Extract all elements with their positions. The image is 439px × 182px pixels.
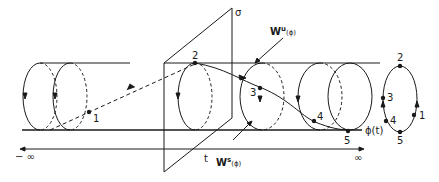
mid-circle-back bbox=[195, 63, 212, 130]
label-sigma: σ bbox=[235, 7, 242, 18]
orbit-label-4: 4 bbox=[390, 115, 396, 126]
orbit-down-arrow-icon bbox=[381, 101, 385, 107]
mid-circle-arrow-icon bbox=[176, 93, 180, 99]
orbit-point-4 bbox=[384, 119, 388, 123]
orbit-point-3 bbox=[381, 96, 385, 100]
ws-pointer bbox=[233, 123, 250, 140]
label-ws-arg: (ϕ) bbox=[231, 160, 241, 168]
left-circle-2-arrow-icon bbox=[53, 93, 57, 99]
orbit-point-5 bbox=[398, 130, 402, 134]
label-neg-infinity: − ∞ bbox=[15, 151, 35, 162]
orbit-point-2 bbox=[398, 64, 402, 68]
label-wu: Wu(ϕ) bbox=[270, 25, 296, 37]
mid-circle-front bbox=[178, 63, 195, 130]
label-time: t bbox=[204, 153, 208, 164]
label-point-4: 4 bbox=[317, 111, 323, 122]
label-point-1: 1 bbox=[93, 113, 99, 124]
label-pos-infinity: ∞ bbox=[354, 152, 362, 163]
point-4 bbox=[312, 119, 316, 123]
label-ws-main: W bbox=[216, 157, 227, 168]
label-point-2: 2 bbox=[192, 50, 198, 61]
dashed-trajectory bbox=[50, 64, 195, 130]
left-circle-1-arrow-icon bbox=[23, 93, 27, 99]
orbit-label-3: 3 bbox=[387, 92, 393, 103]
tube-diagram: 1 2 3 4 5 2 3 4 1 5 σ Wu(ϕ) Ws(ϕ) ϕ(t) t… bbox=[0, 0, 439, 182]
orbit-point-1 bbox=[412, 113, 416, 117]
label-point-5: 5 bbox=[344, 135, 350, 146]
label-trajectory: ϕ(t) bbox=[365, 125, 383, 136]
unstable-trajectory-curve bbox=[195, 63, 350, 130]
orbit-label-5: 5 bbox=[397, 135, 403, 146]
label-wu-arg: (ϕ) bbox=[286, 29, 296, 37]
point-1 bbox=[87, 110, 91, 114]
right-circle-2 bbox=[328, 63, 372, 130]
label-point-3: 3 bbox=[250, 87, 256, 98]
dashed-trajectory-arrow-icon bbox=[126, 83, 134, 89]
point-5 bbox=[346, 129, 350, 133]
point-2 bbox=[193, 61, 197, 65]
label-ws: Ws(ϕ) bbox=[216, 156, 242, 168]
orbit-label-1: 1 bbox=[419, 110, 425, 121]
label-wu-main: W bbox=[270, 26, 281, 37]
orbit-label-2: 2 bbox=[397, 52, 403, 63]
circle-3-arrow-icon bbox=[258, 96, 262, 102]
circle-3-back bbox=[262, 63, 284, 130]
time-axis-right-arrow-icon bbox=[359, 147, 364, 151]
point-3 bbox=[258, 86, 262, 90]
right-circle-arrow-icon bbox=[296, 96, 300, 102]
orbit-up-arrow-icon bbox=[415, 101, 419, 107]
wu-pointer bbox=[255, 38, 283, 63]
